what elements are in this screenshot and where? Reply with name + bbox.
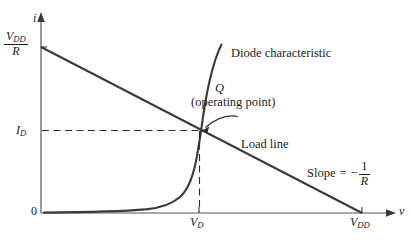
y-axis-label: i (33, 12, 36, 24)
slope-annotation: Slope=− 1 R (307, 160, 370, 188)
y-operating-tick-label: ID (16, 124, 26, 138)
y-axis (37, 12, 45, 213)
slope-word: Slope (307, 166, 335, 180)
x-axis-label: v (399, 205, 404, 217)
diode-characteristic-curve (44, 45, 222, 213)
y-axis-arrow-icon (37, 12, 45, 22)
plot-canvas (0, 0, 412, 244)
y-intercept-label: VDD R (4, 30, 28, 58)
operating-point-label: (operating point) (191, 96, 275, 109)
origin-label: 0 (31, 205, 37, 217)
diode-load-line-figure: i v VDD R ID 0 VD VDD Diode characterist… (0, 0, 412, 244)
load-line-label: Load line (241, 138, 289, 151)
vd-subscript: D (197, 220, 203, 230)
vdd-numerator-subscript: DD (13, 34, 25, 44)
x-axis (41, 209, 396, 217)
x-axis-arrow-icon (386, 209, 396, 217)
x-operating-tick-label: VD (190, 216, 204, 230)
x-intercept-tick-label: VDD (350, 216, 370, 230)
id-subscript: D (20, 128, 26, 138)
slope-minus-sign: − (351, 166, 358, 180)
slope-denominator: R (359, 175, 371, 189)
diode-characteristic-label: Diode characteristic (231, 47, 331, 60)
slope-numerator: 1 (359, 160, 371, 175)
vdd-denominator-symbol: R (4, 45, 28, 58)
vdd-axis-subscript: DD (357, 220, 369, 230)
slope-equals-sign: = (339, 166, 346, 180)
operating-point-leader-arrow (201, 116, 239, 133)
q-point-label: Q (215, 82, 224, 95)
